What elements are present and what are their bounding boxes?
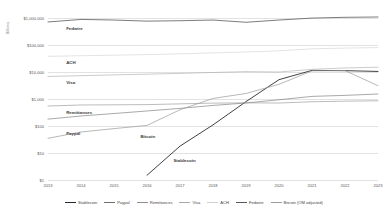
legend-swatch	[207, 202, 218, 203]
legend-item-fedwire[interactable]: Fedwire	[236, 200, 264, 205]
legend-label: Stablecoin	[78, 200, 97, 205]
x-tick-label: 2014	[76, 183, 85, 188]
y-tick-label: $1,000	[31, 97, 44, 102]
inline-label-stablecoin: Stablecoin	[173, 158, 195, 163]
legend-label: Visa	[192, 200, 200, 205]
gridline	[48, 180, 378, 181]
inline-label-visa: Visa	[66, 79, 75, 84]
y-tick-label: $100,000	[27, 43, 44, 48]
series-line-paypal	[48, 94, 378, 119]
x-tick-label: 2013	[43, 183, 52, 188]
legend-label: ACH	[220, 200, 229, 205]
x-tick-label: 2018	[208, 183, 217, 188]
y-tick-label: $1	[39, 178, 44, 183]
series-lines	[48, 18, 378, 180]
inline-label-remittances: Remittances	[66, 109, 92, 114]
x-tick-label: 2021	[307, 183, 316, 188]
legend-label: Paypal	[117, 200, 130, 205]
x-tick-label: 2015	[109, 183, 118, 188]
x-tick-label: 2016	[142, 183, 151, 188]
series-line-visa	[48, 67, 378, 76]
legend-swatch	[236, 202, 247, 203]
y-axis-title: Billions	[6, 6, 10, 50]
legend-label: Remittances	[150, 200, 173, 205]
x-tick-label: 2023	[373, 183, 382, 188]
legend-swatch	[104, 202, 115, 203]
y-tick-label: $10,000	[29, 70, 44, 75]
legend-swatch	[137, 202, 148, 203]
y-tick-label: $10	[37, 151, 44, 156]
inline-label-bitcoin: Bitcoin	[140, 134, 155, 139]
legend-label: Bitcoin (OM adjusted)	[284, 200, 323, 205]
legend-item-ach[interactable]: ACH	[207, 200, 229, 205]
chart-legend: StablecoinPaypalRemittancesVisaACHFedwir…	[0, 200, 388, 205]
legend-swatch	[271, 202, 282, 203]
x-tick-label: 2017	[175, 183, 184, 188]
series-line-bitcoin-om-adjusted	[48, 71, 378, 139]
inline-label-fedwire: Fedwire	[66, 25, 83, 30]
y-tick-label: $1,000,000	[24, 16, 45, 21]
legend-item-visa[interactable]: Visa	[179, 200, 200, 205]
plot-area: $1,000,000$100,000$10,000$1,000$100$10$1…	[48, 18, 378, 180]
legend-item-paypal[interactable]: Paypal	[104, 200, 130, 205]
inline-label-ach: ACH	[66, 60, 76, 65]
x-tick-label: 2022	[340, 183, 349, 188]
legend-swatch	[179, 202, 190, 203]
legend-swatch	[65, 202, 76, 203]
x-tick-label: 2019	[241, 183, 250, 188]
legend-item-bitcoin-om-adjusted[interactable]: Bitcoin (OM adjusted)	[271, 200, 323, 205]
legend-label: Fedwire	[249, 200, 264, 205]
series-line-fedwire	[48, 17, 378, 22]
inline-label-paypal: Paypal	[66, 130, 80, 135]
legend-item-stablecoin[interactable]: Stablecoin	[65, 200, 97, 205]
chart-container: Billions $1,000,000$100,000$10,000$1,000…	[0, 0, 388, 220]
series-line-ach	[48, 48, 378, 57]
x-tick-label: 2020	[274, 183, 283, 188]
legend-item-remittances[interactable]: Remittances	[137, 200, 173, 205]
y-tick-label: $100	[35, 124, 44, 129]
